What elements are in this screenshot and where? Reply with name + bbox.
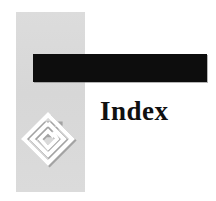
spiral-diamond-logo — [17, 110, 79, 172]
index-page: Index — [0, 0, 216, 201]
black-horizontal-banner — [33, 54, 207, 82]
page-title: Index — [100, 96, 169, 126]
